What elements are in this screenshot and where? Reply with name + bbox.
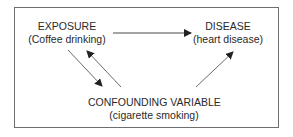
arrow-confounder-to-disease [196, 52, 233, 87]
arrow-exposure-to-confounder [68, 50, 102, 86]
arrows-layer [0, 0, 293, 137]
arrow-confounder-to-exposure [87, 51, 121, 87]
